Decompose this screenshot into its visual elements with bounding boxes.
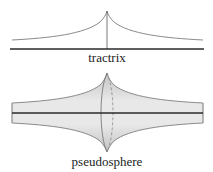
tractrix-label: tractrix (88, 50, 126, 65)
tractrix-pseudosphere-diagram: tractrix pseudosphere (0, 0, 213, 172)
tractrix-panel: tractrix (10, 11, 204, 65)
tractrix-curve (12, 11, 203, 40)
pseudosphere-panel: pseudosphere (12, 73, 203, 169)
pseudosphere-label: pseudosphere (72, 154, 143, 169)
